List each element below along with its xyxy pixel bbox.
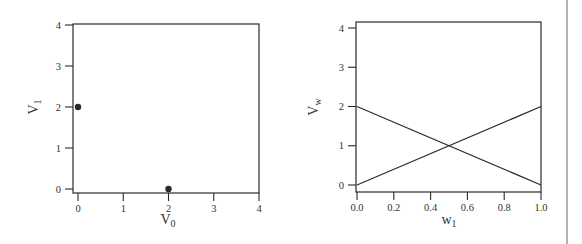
y-tick-label: 4 xyxy=(56,20,62,31)
x-axis-label: w1 xyxy=(441,212,456,229)
right-line-chart: 012340.00.20.40.60.81.0w1Vw xyxy=(306,22,548,229)
y-tick-label: 3 xyxy=(56,61,61,72)
y-tick-label: 3 xyxy=(339,62,344,73)
x-tick-label: 0.0 xyxy=(350,202,363,213)
plot-frame xyxy=(73,24,259,193)
x-tick-label: 4 xyxy=(256,203,262,214)
x-tick-label: 0.2 xyxy=(387,202,400,213)
x-tick-label: 3 xyxy=(211,203,216,214)
y-tick-label: 4 xyxy=(339,23,345,34)
x-tick-label: 1.0 xyxy=(534,202,547,213)
y-tick-label: 2 xyxy=(339,101,344,112)
data-point-1 xyxy=(165,186,171,192)
left-scatter-chart: 0123401234V0V1 xyxy=(26,20,262,230)
x-tick-label: 0 xyxy=(75,203,80,214)
y-tick-label: 1 xyxy=(339,140,344,151)
y-axis-label: V1 xyxy=(26,99,43,114)
x-tick-label: 0.6 xyxy=(461,202,474,213)
y-axis-label: Vw xyxy=(306,98,323,116)
x-tick-label: 0.4 xyxy=(424,202,438,213)
y-tick-label: 1 xyxy=(56,143,61,154)
y-tick-label: 0 xyxy=(56,184,61,195)
x-axis-label: V0 xyxy=(160,212,175,229)
data-point-0 xyxy=(75,104,81,110)
y-tick-label: 2 xyxy=(56,102,61,113)
x-tick-label: 0.8 xyxy=(498,202,511,213)
figure: 0123401234V0V1 012340.00.20.40.60.81.0w1… xyxy=(0,0,582,244)
x-tick-label: 1 xyxy=(121,203,126,214)
y-tick-label: 0 xyxy=(339,180,344,191)
plot-frame xyxy=(356,22,541,192)
